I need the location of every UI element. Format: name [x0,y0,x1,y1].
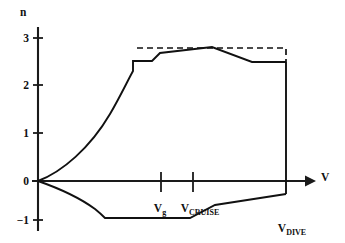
x-speed-labels: Vg VCRUISE VDIVE [154,202,306,237]
axes-group [32,27,316,231]
x-axis-arrowhead [305,176,316,187]
positive-maneuver-envelope [38,47,286,181]
vn-diagram-figure: 3 2 1 0 −1 n V Vg VCRUISE VDIVE [0,0,345,243]
label-v-cruise-sub: CRUISE [189,208,219,217]
vn-diagram-canvas: 3 2 1 0 −1 n V Vg VCRUISE VDIVE [0,0,345,243]
gust-envelope-dashed [137,48,286,62]
y-tick-label-neg-1: −1 [17,214,30,226]
y-tick-labels: 3 2 1 0 −1 [17,32,30,226]
y-tick-label-0: 0 [23,175,29,187]
label-v-cruise: VCRUISE [181,202,220,217]
y-tick-label-1: 1 [23,127,29,139]
y-tick-label-3: 3 [23,32,29,44]
x-axis-title: V [321,171,330,183]
axis-titles: n V [20,6,330,183]
envelope-curves [38,47,286,218]
label-v-g: Vg [154,202,166,217]
label-v-dive-sub: DIVE [286,228,306,237]
y-axis-title: n [20,6,27,18]
label-v-g-sub: g [162,208,166,217]
y-tick-label-2: 2 [23,79,29,91]
label-v-dive: VDIVE [278,222,306,237]
